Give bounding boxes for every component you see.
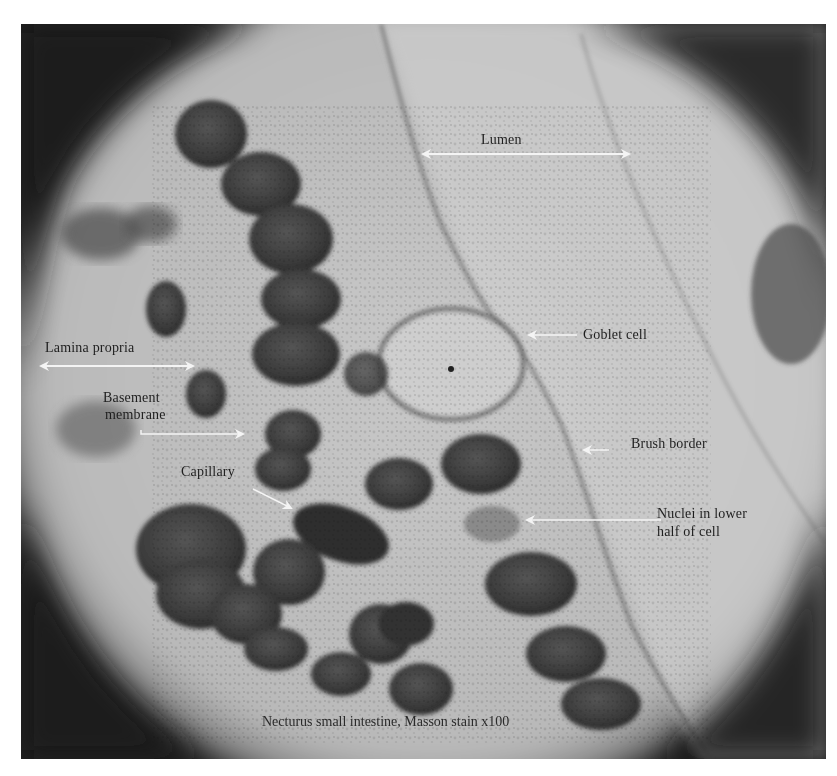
- label-lumen: Lumen: [481, 132, 522, 148]
- label-nuclei-line1: Nuclei in lower: [657, 506, 747, 522]
- label-brush-border: Brush border: [631, 436, 707, 452]
- label-goblet-cell: Goblet cell: [583, 327, 647, 343]
- label-basement-membrane-line2: membrane: [105, 407, 166, 423]
- label-lamina-propria: Lamina propria: [45, 340, 135, 356]
- label-nuclei-line2: half of cell: [657, 524, 720, 540]
- label-capillary: Capillary: [181, 464, 235, 480]
- label-basement-membrane-line1: Basement: [103, 390, 160, 406]
- figure-caption: Necturus small intestine, Masson stain x…: [262, 714, 509, 730]
- micrograph-frame: Lumen Lamina propria Basement membrane G…: [21, 24, 826, 759]
